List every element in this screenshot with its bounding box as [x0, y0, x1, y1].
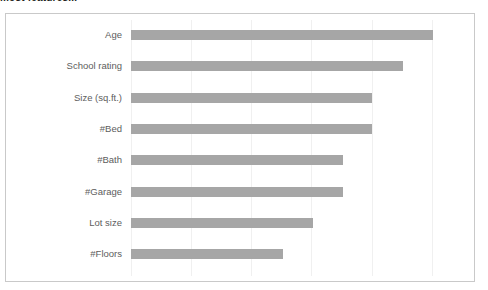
- plot-area: AgeSchool ratingSize (sq.ft.)#Bed#Bath#G…: [6, 14, 474, 281]
- bar-row: #Bed: [6, 118, 474, 140]
- bar-track: [131, 118, 474, 140]
- bar-category-label: Age: [105, 24, 122, 46]
- bar: [131, 61, 403, 71]
- bar: [131, 155, 343, 165]
- bar-track: [131, 24, 474, 46]
- bar: [131, 124, 372, 134]
- bar-row: Age: [6, 24, 474, 46]
- chart-frame: AgeSchool ratingSize (sq.ft.)#Bed#Bath#G…: [5, 13, 475, 282]
- bar: [131, 218, 313, 228]
- bar-track: [131, 212, 474, 234]
- caption-text: most features...: [0, 0, 140, 5]
- bar-row: Size (sq.ft.): [6, 87, 474, 109]
- bar-category-label: #Bath: [97, 149, 122, 171]
- bar-track: [131, 149, 474, 171]
- bar-row: #Garage: [6, 181, 474, 203]
- bar: [131, 30, 433, 40]
- bar-track: [131, 243, 474, 265]
- bar-row: #Bath: [6, 149, 474, 171]
- bar-row: Lot size: [6, 212, 474, 234]
- bar-category-label: #Floors: [90, 243, 122, 265]
- bar: [131, 249, 283, 259]
- bar-row: #Floors: [6, 243, 474, 265]
- bar-category-label: #Bed: [100, 118, 122, 140]
- caption-clipped: most features...: [0, 0, 140, 5]
- bar: [131, 93, 372, 103]
- bar-category-label: #Garage: [85, 181, 122, 203]
- bar-category-label: Lot size: [89, 212, 122, 234]
- bar-track: [131, 55, 474, 77]
- bar: [131, 187, 343, 197]
- bar-row: School rating: [6, 55, 474, 77]
- bar-track: [131, 87, 474, 109]
- bar-track: [131, 181, 474, 203]
- bar-category-label: Size (sq.ft.): [74, 87, 122, 109]
- bar-category-label: School rating: [67, 55, 122, 77]
